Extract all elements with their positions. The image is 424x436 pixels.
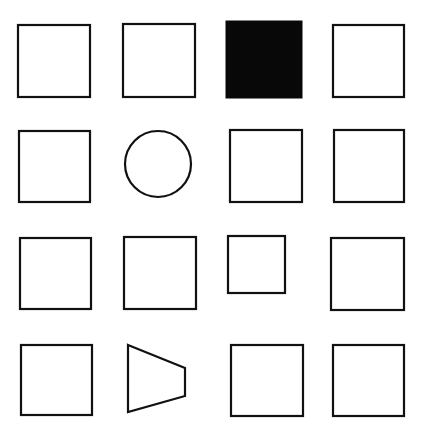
shape-square-r2c4[interactable] [334, 130, 404, 202]
shape-square-r1c2[interactable] [123, 24, 195, 97]
shape-square-r4c4[interactable] [333, 345, 404, 416]
shape-square-r4c3[interactable] [231, 345, 303, 416]
shape-square-r3c2[interactable] [124, 237, 196, 309]
shape-square-small-r3c3[interactable] [228, 236, 285, 293]
shape-square-filled-r1c3[interactable] [226, 21, 302, 98]
shape-square-r4c1[interactable] [21, 345, 92, 415]
shape-square-r2c3[interactable] [230, 130, 302, 202]
shape-square-r2c1[interactable] [19, 131, 90, 202]
shape-square-r3c1[interactable] [20, 238, 91, 309]
shape-square-r3c4[interactable] [331, 238, 404, 310]
shape-square-r1c4[interactable] [333, 25, 404, 97]
shape-trapezoid-r4c2[interactable] [128, 345, 185, 412]
shape-square-r1c1[interactable] [18, 25, 90, 97]
shape-circle-r2c2[interactable] [125, 131, 191, 197]
shape-grid-svg [0, 0, 424, 436]
shape-grid-canvas [0, 0, 424, 436]
